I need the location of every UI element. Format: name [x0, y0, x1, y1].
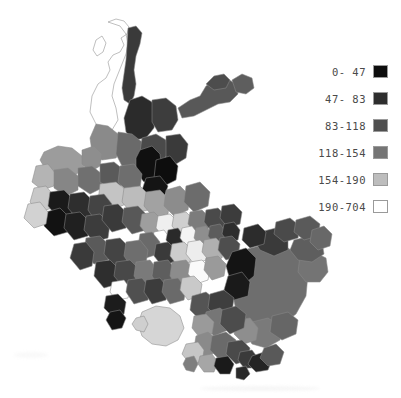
scan-artifact [200, 386, 320, 391]
legend-swatch [373, 92, 388, 105]
legend-item[interactable]: 190-704 [292, 193, 388, 220]
region [90, 19, 129, 132]
legend-item[interactable]: 47- 83 [292, 85, 388, 112]
legend-swatch [373, 200, 388, 213]
scan-artifact [14, 352, 48, 358]
legend-label: 47- 83 [318, 93, 366, 105]
region [78, 166, 102, 194]
map-legend: 0- 47 47- 83 83-118 118-154 154-190 190-… [292, 58, 388, 220]
legend-swatch [373, 146, 388, 159]
legend-label: 0- 47 [318, 66, 366, 78]
choropleth-map-figure: 0- 47 47- 83 83-118 118-154 154-190 190-… [0, 0, 401, 398]
legend-swatch [373, 119, 388, 132]
region [93, 36, 106, 56]
legend-label: 190-704 [318, 201, 366, 213]
legend-label: 83-118 [318, 120, 366, 132]
legend-item[interactable]: 118-154 [292, 139, 388, 166]
legend-swatch [373, 173, 388, 186]
legend-label: 154-190 [318, 174, 366, 186]
legend-item[interactable]: 0- 47 [292, 58, 388, 85]
legend-swatch [373, 65, 388, 78]
legend-label: 118-154 [318, 147, 366, 159]
legend-item[interactable]: 154-190 [292, 166, 388, 193]
region [152, 98, 178, 132]
region [242, 224, 266, 248]
legend-item[interactable]: 83-118 [292, 112, 388, 139]
